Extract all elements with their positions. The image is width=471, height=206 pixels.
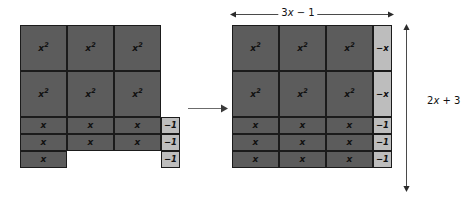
tile-negative-one: −1 bbox=[161, 117, 180, 134]
width-dimension-text: 3x − 1 bbox=[281, 7, 314, 18]
height-dimension-text: 2x + 3 bbox=[427, 95, 460, 106]
tile-label: x2 bbox=[38, 44, 49, 53]
tile-label: x bbox=[347, 138, 353, 147]
tile-x: x bbox=[232, 151, 279, 168]
tile-x-squared: x2 bbox=[279, 25, 326, 71]
height-dimension-arrow bbox=[401, 24, 412, 192]
tile-x-squared: x2 bbox=[232, 25, 279, 71]
figure-canvas: x2 x2 x2 x2 x2 x2 x x x x bbox=[0, 0, 471, 206]
tile-x-squared: x2 bbox=[114, 25, 161, 71]
tile-label: x bbox=[41, 155, 47, 164]
tile-label: −1 bbox=[164, 138, 177, 147]
tile-x: x bbox=[67, 134, 114, 151]
tile-negative-one: −1 bbox=[161, 151, 180, 168]
tile-x: x bbox=[20, 151, 67, 168]
tile-label: x bbox=[300, 121, 306, 130]
tile-label: x2 bbox=[297, 90, 308, 99]
tile-x-squared: x2 bbox=[279, 71, 326, 117]
tile-label: x2 bbox=[344, 90, 355, 99]
tile-x: x bbox=[326, 151, 373, 168]
tile-label: −x bbox=[376, 44, 389, 53]
tile-x: x bbox=[67, 117, 114, 134]
tile-label: x bbox=[347, 155, 353, 164]
tile-label: x2 bbox=[85, 44, 96, 53]
tile-label: −1 bbox=[164, 155, 177, 164]
tile-x-squared: x2 bbox=[20, 71, 67, 117]
tile-negative-one: −1 bbox=[373, 151, 392, 168]
tile-label: x bbox=[41, 121, 47, 130]
tile-x: x bbox=[279, 134, 326, 151]
tile-label: x2 bbox=[38, 90, 49, 99]
tile-label: x bbox=[135, 138, 141, 147]
tile-label: x bbox=[41, 138, 47, 147]
tile-label: x2 bbox=[250, 44, 261, 53]
tile-label: x bbox=[253, 138, 259, 147]
tile-label: −1 bbox=[164, 121, 177, 130]
tile-negative-x: −x bbox=[373, 71, 392, 117]
tile-x-squared: x2 bbox=[67, 25, 114, 71]
tile-label: x bbox=[300, 155, 306, 164]
tile-label: x bbox=[253, 121, 259, 130]
tile-x: x bbox=[279, 151, 326, 168]
width-dimension-label: 3x − 1 bbox=[278, 8, 317, 18]
tile-negative-x: −x bbox=[373, 25, 392, 71]
tile-x-squared: x2 bbox=[67, 71, 114, 117]
tile-label: −1 bbox=[376, 155, 389, 164]
tile-label: x2 bbox=[250, 90, 261, 99]
tile-negative-one: −1 bbox=[373, 134, 392, 151]
tile-x: x bbox=[326, 134, 373, 151]
tile-label: −1 bbox=[376, 121, 389, 130]
tile-x-squared: x2 bbox=[326, 25, 373, 71]
tile-x: x bbox=[114, 134, 161, 151]
tile-label: x2 bbox=[132, 90, 143, 99]
tile-x: x bbox=[232, 134, 279, 151]
tile-label: x bbox=[135, 121, 141, 130]
tile-label: x2 bbox=[132, 44, 143, 53]
tile-x: x bbox=[326, 117, 373, 134]
tile-x-squared: x2 bbox=[20, 25, 67, 71]
tile-x: x bbox=[20, 134, 67, 151]
tile-label: x bbox=[300, 138, 306, 147]
tile-x: x bbox=[279, 117, 326, 134]
tile-label: −x bbox=[376, 90, 389, 99]
tile-negative-one: −1 bbox=[373, 117, 392, 134]
tile-x: x bbox=[114, 117, 161, 134]
tile-label: x bbox=[253, 155, 259, 164]
tile-label: x bbox=[88, 138, 94, 147]
tile-x: x bbox=[20, 117, 67, 134]
tile-x: x bbox=[232, 117, 279, 134]
tile-label: x bbox=[347, 121, 353, 130]
tile-label: x2 bbox=[85, 90, 96, 99]
rearrange-arrow-icon bbox=[188, 103, 228, 114]
tile-label: x2 bbox=[344, 44, 355, 53]
tile-label: x bbox=[88, 121, 94, 130]
tile-negative-one: −1 bbox=[161, 134, 180, 151]
tile-x-squared: x2 bbox=[114, 71, 161, 117]
tile-x-squared: x2 bbox=[232, 71, 279, 117]
tile-x-squared: x2 bbox=[326, 71, 373, 117]
tile-label: x2 bbox=[297, 44, 308, 53]
tile-label: −1 bbox=[376, 138, 389, 147]
height-dimension-label: 2x + 3 bbox=[424, 96, 463, 106]
